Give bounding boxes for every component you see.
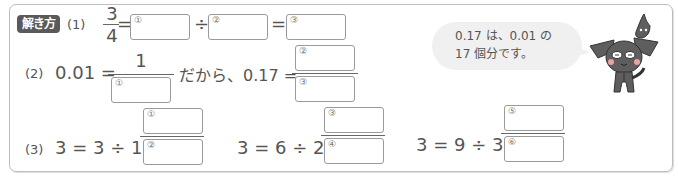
problem-3-answer-box-3[interactable]: ③	[324, 107, 384, 133]
box-index: ②	[212, 15, 220, 25]
box-index: ③	[328, 108, 336, 118]
box-index: ④	[328, 139, 336, 149]
problem-3-answer-box-2[interactable]: ②	[143, 139, 203, 165]
box-index: ①	[134, 15, 142, 25]
box-index: ③	[290, 15, 298, 25]
solution-badge: 解き方	[17, 15, 60, 33]
box-index: ⑥	[508, 137, 516, 147]
problem-3-fraction-bar-3	[501, 133, 565, 134]
box-index: ①	[147, 109, 155, 119]
problem-2-answer-box-1[interactable]: ①	[111, 77, 171, 103]
hint-line-1: 0.17 は、0.01 の	[455, 27, 552, 45]
problem-1-divide-sign: ÷	[194, 13, 209, 34]
box-index: ③	[299, 77, 307, 87]
problem-1-answer-box-3[interactable]: ③	[286, 14, 346, 40]
problem-3-answer-box-6[interactable]: ⑥	[504, 136, 564, 162]
problem-2-fraction-bar-2	[292, 73, 358, 74]
problem-3-label: (3)	[25, 142, 43, 157]
problem-1-equals-2: =	[271, 13, 286, 34]
problem-3-answer-box-5[interactable]: ⑤	[504, 105, 564, 131]
problem-1-label: (1)	[67, 17, 85, 32]
problem-2-answer-box-3[interactable]: ③	[295, 76, 355, 102]
box-index: ②	[147, 140, 155, 150]
box-index: ⑤	[508, 106, 516, 116]
problem-2-lhs: 0.01 =	[55, 62, 116, 83]
problem-3-fraction-bar-2	[321, 135, 385, 136]
problem-2-label: (2)	[25, 66, 43, 81]
problem-3-answer-box-1[interactable]: ①	[143, 108, 203, 134]
box-index: ②	[299, 46, 307, 56]
dog-character-icon	[584, 12, 666, 96]
hint-text: 0.17 は、0.01 の 17 個分です。	[455, 27, 552, 63]
problem-2-fraction-bar-1	[108, 74, 174, 75]
problem-2-fraction-numerator: 1	[110, 50, 172, 71]
problem-3-fraction-bar-1	[140, 136, 204, 137]
problem-1-answer-box-1[interactable]: ①	[130, 14, 190, 40]
problem-1-answer-box-2[interactable]: ②	[208, 14, 268, 40]
problem-3-answer-box-4[interactable]: ④	[324, 138, 384, 164]
box-index: ①	[115, 78, 123, 88]
problem-2-middle-text: だから、0.17 =	[179, 62, 297, 86]
problem-2-answer-box-2[interactable]: ②	[295, 45, 355, 71]
hint-line-2: 17 個分です。	[455, 45, 552, 63]
